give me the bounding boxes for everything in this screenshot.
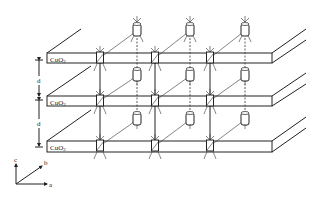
- axes-indicator: c b a: [14, 156, 53, 189]
- layer-label: CuO: [50, 56, 63, 64]
- back-pillars: [104, 33, 245, 143]
- cuo2-layer-2: CuO2: [47, 66, 306, 107]
- spacing-label-d: d: [37, 77, 41, 85]
- axis-label-c: c: [14, 156, 17, 164]
- cuo2-layer-3: CuO2: [47, 110, 306, 152]
- spacing-indicator: d d: [35, 60, 43, 147]
- cuo2-layer-diagram: CuO2 CuO2 CuO2 d d: [0, 0, 319, 200]
- back-cylinders: [131, 16, 251, 129]
- axis-label-a: a: [49, 181, 53, 189]
- spacing-label-d: d: [37, 120, 41, 128]
- layer-label: CuO: [50, 144, 63, 152]
- layer-label: CuO: [50, 99, 63, 107]
- axis-label-b: b: [44, 159, 48, 167]
- cuo2-layer-1: CuO2: [47, 29, 306, 64]
